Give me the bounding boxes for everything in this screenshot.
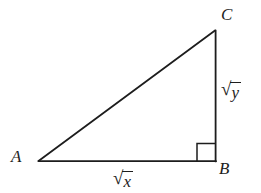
radicand-x: x — [122, 171, 133, 190]
side-length-label-ab: √x — [113, 167, 133, 186]
radicand-y: y — [230, 82, 241, 101]
side-length-label-bc: √y — [221, 78, 241, 97]
vertex-label-a: A — [11, 148, 21, 165]
vertex-label-c: C — [221, 6, 232, 23]
vertex-label-b: B — [219, 160, 229, 177]
